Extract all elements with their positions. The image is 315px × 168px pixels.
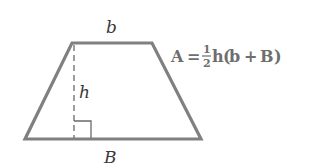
formula-plus-sign: + — [244, 47, 257, 66]
bottom-base-label: B — [103, 147, 117, 167]
formula-area-symbol: A — [170, 47, 184, 66]
formula-b: b — [229, 47, 240, 66]
formula-fraction-numerator: 1 — [203, 43, 211, 56]
right-angle-marker — [74, 121, 91, 138]
formula-fraction-denominator: 2 — [203, 57, 211, 70]
area-formula: A = 1 2 h ( b + B ) — [170, 43, 282, 70]
height-label: h — [79, 82, 90, 102]
top-base-label: b — [106, 17, 117, 37]
formula-equals-sign: = — [187, 47, 200, 66]
trapezoid-area-diagram: b h B A = 1 2 h ( b + B ) — [0, 0, 315, 168]
formula-close-paren: ) — [274, 47, 282, 66]
formula-B: B — [260, 47, 274, 66]
